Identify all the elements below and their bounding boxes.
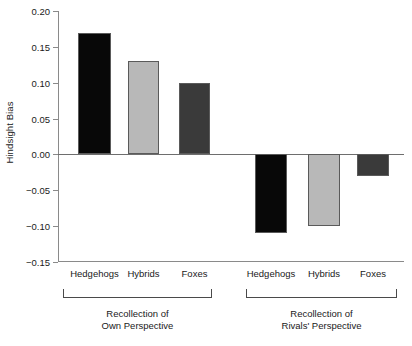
category-label: Foxes — [182, 268, 208, 279]
bar — [255, 154, 287, 233]
group-label-line-2: Rivals' Perspective — [282, 320, 362, 332]
y-axis-tick-label: 0.20 — [32, 6, 51, 17]
group-label-line-1: Recollection of — [102, 308, 174, 320]
bar-chart-figure: Hindsight Bias 0.200.150.100.050.00−0.05… — [0, 0, 412, 346]
category-label: Hedgehogs — [70, 268, 119, 279]
bar — [308, 154, 340, 226]
y-axis-tick — [53, 47, 58, 48]
y-axis-tick — [53, 190, 58, 191]
category-label: Foxes — [360, 268, 386, 279]
group-bracket — [63, 289, 212, 298]
bar — [357, 154, 389, 176]
y-axis-tick — [53, 119, 58, 120]
group-label: Recollection ofOwn Perspective — [102, 308, 174, 332]
y-axis-tick-label: −0.15 — [26, 257, 50, 268]
category-label: Hybrids — [127, 268, 159, 279]
y-axis-tick-label: −0.10 — [26, 221, 50, 232]
bar — [179, 83, 210, 155]
x-axis-spine — [58, 261, 404, 262]
y-axis-label: Hindsight Bias — [0, 0, 18, 265]
group-label-line-2: Own Perspective — [102, 320, 174, 332]
group-label-line-1: Recollection of — [282, 308, 362, 320]
category-label: Hybrids — [308, 268, 340, 279]
bar — [78, 33, 111, 155]
bar — [128, 61, 159, 154]
y-axis-tick-label: 0.15 — [32, 41, 51, 52]
category-label: Hedgehogs — [247, 268, 296, 279]
y-axis-label-text: Hindsight Bias — [4, 101, 15, 163]
y-axis-spine — [58, 11, 59, 262]
y-axis-tick — [53, 262, 58, 263]
group-bracket — [246, 289, 397, 298]
zero-baseline — [58, 154, 404, 155]
y-axis-tick — [53, 11, 58, 12]
y-axis-tick-label: 0.00 — [32, 149, 51, 160]
y-axis-tick-label: 0.05 — [32, 113, 51, 124]
y-axis-tick — [53, 83, 58, 84]
y-axis-tick — [53, 226, 58, 227]
plot-area: 0.200.150.100.050.00−0.05−0.10−0.15 — [58, 11, 404, 262]
group-label: Recollection ofRivals' Perspective — [282, 308, 362, 332]
y-axis-tick-label: −0.05 — [26, 185, 50, 196]
y-axis-tick-label: 0.10 — [32, 77, 51, 88]
